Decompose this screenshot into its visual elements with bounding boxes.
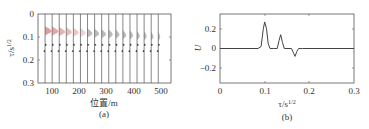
wavelet [59,27,65,36]
panel-a: 0 0.1 0.2 0.3 100 200 300 400 500 位置/m (… [6,9,171,119]
panel-a-xticks: 100 200 300 400 500 [45,86,168,96]
ytick-label: 0.2 [23,55,34,65]
panel-a-caption: (a) [99,109,109,119]
panel-a-ylabel: τ/s1/2 [6,39,16,56]
event-marker [123,44,125,47]
event-marker [156,50,158,53]
panel-b-caption: (b) [282,112,293,122]
wavelet [73,28,78,37]
wavelet [137,31,140,40]
event-marker [114,50,116,53]
wavelet [52,27,58,36]
event-marker [72,50,74,53]
panel-a-traces [43,14,160,83]
event-marker [59,44,61,47]
event-marker [142,50,144,53]
panel-b-xticks: 0 0.1 0.2 0.3 [218,14,360,96]
ytick-label: 0.3 [23,78,35,88]
wavelet [116,30,120,39]
xtick-label: 200 [72,86,86,96]
event-marker [73,44,75,47]
ytick-label: 0 [212,43,217,53]
xtick-label: 0.3 [348,86,360,96]
wavelet [130,31,133,40]
ylabel-sup: 1/2 [6,39,12,47]
ytick-label: 0 [30,9,35,19]
event-marker [151,44,153,47]
event-marker [100,50,102,53]
ytick-label: 0.1 [23,32,34,42]
event-marker [144,44,146,47]
event-marker [52,44,54,47]
figure: 0 0.1 0.2 0.3 100 200 300 400 500 位置/m (… [0,0,369,129]
event-marker [107,50,109,53]
wavelet [109,29,113,38]
event-marker [45,44,47,47]
event-marker [128,50,130,53]
wavelet [123,30,126,39]
svg-text:τ/s1/2: τ/s1/2 [6,39,16,56]
wavelet [66,27,72,36]
event-marker [137,44,139,47]
panel-b: 0.2 0 −0.2 0 0.1 0.2 0.3 τ/s1/2 (b) U [193,14,360,122]
event-marker [130,44,132,47]
event-marker [57,50,59,53]
wavelet [102,29,106,38]
event-marker [116,44,118,47]
event-marker [102,44,104,47]
xtick-label: 300 [99,86,113,96]
xtick-label: 400 [127,86,141,96]
xtick-label: 0.1 [259,86,270,96]
panel-a-xlabel: 位置/m [90,97,118,108]
xtick-label: 100 [45,86,59,96]
xtick-label: 0 [218,86,223,96]
event-marker [80,44,82,47]
event-marker [158,44,160,47]
event-marker [93,50,95,53]
panel-b-curve [220,22,354,57]
xlabel-sup: 1/2 [288,99,296,105]
wavelet [45,26,52,35]
event-marker [64,50,66,53]
ytick-label: −0.2 [200,63,216,73]
event-marker [88,44,90,47]
event-marker [79,50,81,53]
event-marker [109,44,111,47]
wavelet [95,29,100,38]
wavelet [88,28,93,37]
panel-b-ylabel: U [193,44,203,51]
event-marker [135,50,137,53]
xtick-label: 500 [154,86,168,96]
event-marker [66,44,68,47]
event-marker [95,44,97,47]
panel-b-xlabel: τ/s1/2 [278,99,295,109]
wavelet [144,31,147,40]
event-marker [50,50,52,53]
event-marker [121,50,123,53]
ytick-label: 0.2 [205,24,216,34]
event-marker [149,50,151,53]
wavelet [80,28,85,37]
ylabel-main: τ/s [6,47,16,57]
xtick-label: 0.2 [303,86,314,96]
event-marker [86,50,88,53]
xlabel-main: τ/s [278,99,288,109]
event-marker [43,50,45,53]
